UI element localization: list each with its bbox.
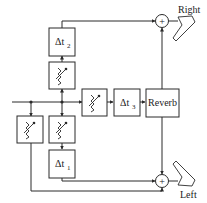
lower-center-attenuator-block [49, 116, 75, 143]
upper-attenuator-block [49, 62, 75, 89]
right-summer: + [156, 15, 169, 28]
junction-dot [29, 100, 32, 103]
speaker-icon [173, 161, 195, 186]
junction-dot [60, 100, 63, 103]
delay2-block: Δt 2 [49, 28, 75, 56]
delay1-subscript: 1 [67, 164, 71, 172]
delay3-block: Δt 3 [114, 89, 140, 116]
left-output-label: Left [180, 189, 197, 200]
delay3-label: Δt [120, 97, 129, 108]
wire-delay1-to-left-sum [62, 178, 155, 181]
delay2-subscript: 2 [67, 42, 71, 50]
right-output-label: Right [178, 4, 200, 15]
lower-left-attenuator-block [17, 116, 43, 143]
reverb-label: Reverb [148, 97, 177, 108]
plus-icon: + [159, 176, 165, 187]
delay2-label: Δt [55, 36, 64, 47]
delay1-label: Δt [55, 158, 64, 169]
delay3-subscript: 3 [132, 103, 136, 111]
speaker-icon [173, 16, 195, 41]
reverb-block: Reverb [146, 89, 179, 117]
middle-attenuator-block [82, 89, 107, 116]
plus-icon: + [159, 16, 165, 27]
signal-flow-diagram: Δt 2 Δt 1 Δt 3 Reverb + + [0, 0, 207, 203]
delay1-block: Δt 1 [49, 150, 75, 178]
left-summer: + [156, 175, 169, 188]
right-speaker: Right [173, 4, 200, 41]
wire-delay2-to-right-sum [62, 21, 155, 28]
